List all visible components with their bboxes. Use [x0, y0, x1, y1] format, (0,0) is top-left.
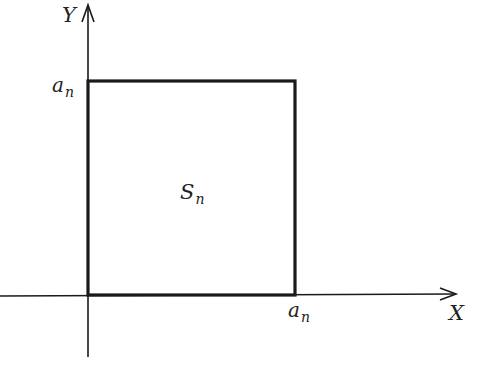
- y-tick-sub: n: [65, 84, 74, 100]
- x-tick-main: a: [288, 298, 300, 322]
- x-axis-label: X: [447, 301, 465, 325]
- y-tick-label: an: [52, 73, 74, 100]
- x-tick-sub: n: [301, 309, 310, 325]
- y-tick-main: a: [52, 73, 64, 97]
- square-label-main: S: [180, 180, 194, 204]
- square-label-sub: n: [195, 191, 204, 207]
- square-label: Sn: [180, 180, 204, 207]
- y-axis-label: Y: [62, 3, 78, 27]
- diagram-canvas: Y X an an Sn: [0, 0, 486, 367]
- x-tick-label: an: [288, 298, 310, 325]
